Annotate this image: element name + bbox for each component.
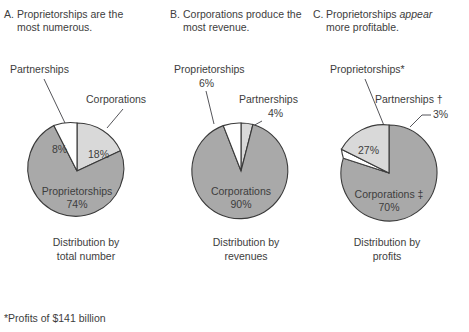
panel-c-title-line2: more profitable. xyxy=(326,21,399,33)
panel-c-letter: C. xyxy=(313,8,326,21)
pie-b-outside-label-2: Partnerships xyxy=(239,93,298,105)
panel-a-caption: Distribution by total number xyxy=(16,236,156,263)
pie-c-slice-label-proprietorships: 27% xyxy=(358,144,379,156)
pie-b-outside-label-1: 6% xyxy=(199,77,214,89)
panel-b-caption-line2: revenues xyxy=(224,250,267,262)
panel-b-letter: B. xyxy=(170,8,183,21)
panel-b-caption-line1: Distribution by xyxy=(213,236,280,248)
pie-a-outside-label-1: Corporations xyxy=(86,93,146,105)
pie-a-slice-label-corporations: 18% xyxy=(88,148,109,160)
leader-line-partnerships-a xyxy=(44,79,65,123)
pie-b-slice-value-corporations: 90% xyxy=(230,198,251,210)
pie-c-outside-label-1: Partnerships † xyxy=(375,93,443,105)
panel-a-pie-wrap: Partnerships Corporations 8% 18% Proprie… xyxy=(4,55,160,230)
pie-chart-c: Proprietorships* Partnerships † 3% 27% C… xyxy=(313,55,469,230)
leader-line-partnerships-c xyxy=(410,115,431,127)
panel-b-title-line1: Corporations produce the xyxy=(183,8,302,20)
chart-panel-b: B.Corporations produce themost revenue. … xyxy=(170,0,326,280)
panel-a-letter: A. xyxy=(4,8,17,21)
pie-c-outside-label-2: 3% xyxy=(433,108,448,120)
pie-a-slice-label-proprietorships: Proprietorships xyxy=(42,185,113,197)
pie-chart-b: Proprietorships 6% Partnerships 4% Corpo… xyxy=(170,55,326,230)
pie-a-slice-label-partnerships: 8% xyxy=(52,143,67,155)
pie-c-slice-label-corporations: Corporations ‡ xyxy=(355,188,424,200)
chart-panel-c: C.Proprietorships appearmore profitable.… xyxy=(313,0,469,280)
panel-b-title: B.Corporations produce themost revenue. xyxy=(170,8,326,34)
panel-b-caption: Distribution by revenues xyxy=(176,236,316,263)
pie-a-slice-value-proprietorships: 74% xyxy=(66,198,87,210)
pie-b-outside-label-0: Proprietorships xyxy=(174,63,245,75)
footnote-1: *Profits of $141 billion xyxy=(4,311,110,325)
panel-c-caption-line1: Distribution by xyxy=(354,236,421,248)
leader-line-proprietorships-b xyxy=(206,91,214,124)
footnotes: *Profits of $141 billion † Losses of $17… xyxy=(4,283,110,332)
panel-c-title: C.Proprietorships appearmore profitable. xyxy=(313,8,469,34)
pie-c-outside-label-0: Proprietorships* xyxy=(330,63,405,75)
panel-b-title-line2: most revenue. xyxy=(183,21,250,33)
pie-chart-a: Partnerships Corporations 8% 18% Proprie… xyxy=(4,55,160,230)
panel-c-caption: Distribution by profits xyxy=(317,236,457,263)
pie-b-outside-label-3: 4% xyxy=(268,107,283,119)
pie-a-outside-label-0: Partnerships xyxy=(10,63,69,75)
panel-a-caption-line2: total number xyxy=(57,250,115,262)
panel-b-pie-wrap: Proprietorships 6% Partnerships 4% Corpo… xyxy=(170,55,326,230)
panel-a-caption-line1: Distribution by xyxy=(53,236,120,248)
chart-panel-a: A.Proprietorships are themost numerous. … xyxy=(4,0,160,280)
panel-a-title-line1: Proprietorships are the xyxy=(17,8,123,20)
panel-a-title-line2: most numerous. xyxy=(17,21,92,33)
panel-c-caption-line2: profits xyxy=(373,250,402,262)
panel-c-title-italic: appear xyxy=(400,8,433,20)
pie-b-slice-label-corporations: Corporations xyxy=(211,185,271,197)
pie-c-slice-value-corporations: 70% xyxy=(378,201,399,213)
panel-c-title-line1: Proprietorships appear xyxy=(326,8,432,20)
panel-a-title: A.Proprietorships are themost numerous. xyxy=(4,8,160,34)
leader-line-corporations-a xyxy=(107,109,123,128)
panel-c-pie-wrap: Proprietorships* Partnerships † 3% 27% C… xyxy=(313,55,469,230)
